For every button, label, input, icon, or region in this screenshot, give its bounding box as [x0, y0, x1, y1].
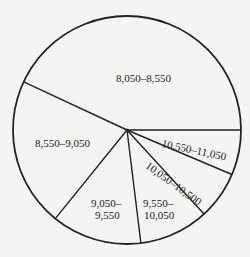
slice-label-9550-10050-line2: 10,050 [144, 210, 174, 221]
slice-label-9550-10050-line1: 9,550– [143, 198, 173, 209]
center-point [125, 128, 128, 131]
pie-slices [13, 16, 241, 244]
slice-label-9050-9550-line1: 9,050– [91, 198, 121, 209]
slice-label-9050-9550-line2: 9,550 [95, 210, 120, 221]
slice-label-8550-9050: 8,550–9,050 [35, 138, 90, 149]
pie-chart [0, 0, 250, 257]
slice-label-8050-8550: 8,050–8,550 [116, 73, 171, 84]
